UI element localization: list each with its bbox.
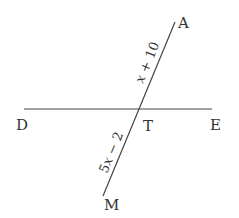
point-label-a: A <box>177 14 189 32</box>
diagram-svg: A D T E M x + 10 5x − 2 <box>0 0 239 218</box>
diagram-canvas: A D T E M x + 10 5x − 2 <box>0 0 239 218</box>
point-label-m: M <box>104 196 119 214</box>
segment-at-rest: + 10 <box>135 40 163 79</box>
point-label-d: D <box>16 116 28 134</box>
segment-tm-rest: − 2 <box>102 130 126 161</box>
svg-text:5x − 2: 5x − 2 <box>96 130 126 176</box>
point-label-e: E <box>210 116 221 134</box>
segment-label-tm: 5x − 2 <box>96 130 126 176</box>
point-label-t: T <box>143 117 153 135</box>
